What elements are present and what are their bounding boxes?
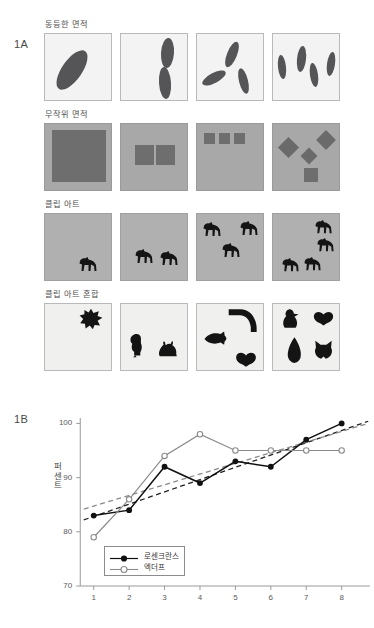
stimulus-cell[interactable] (120, 33, 188, 101)
square-shape (204, 133, 215, 144)
chart-y-tick-label: 70 (52, 581, 72, 590)
stimulus-cell[interactable] (120, 213, 188, 281)
starburst-icon (79, 308, 103, 330)
square-shape (156, 145, 175, 165)
condition-row-clip-art-mixed: 클립 아트 혼합 (44, 290, 349, 371)
ellipse-shape (296, 46, 308, 73)
chart-x-tick-label: 2 (122, 593, 136, 602)
chart-x-tick-label: 6 (264, 593, 278, 602)
chart-x-tick-label: 3 (158, 593, 172, 602)
stimulus-cell[interactable] (196, 213, 264, 281)
ellipse-shape (200, 67, 228, 88)
horse-icon (133, 248, 155, 268)
horse-icon (201, 221, 223, 241)
rabbit-icon (157, 340, 179, 358)
duck-icon (281, 308, 301, 330)
condition-title-equal-area: 동등한 면적 (45, 20, 349, 30)
diamond-shape (301, 148, 318, 165)
panel-1a-label: 1A (14, 38, 28, 50)
legend-symbol-open-circle (109, 561, 139, 572)
horse-icon (238, 220, 260, 240)
leaf-icon (286, 336, 303, 364)
line-chart (60, 410, 374, 616)
condition-row-random-area: 무작위 면적 (44, 110, 349, 191)
panel-1b-label: 1B (14, 413, 28, 425)
stimulus-cell[interactable] (272, 303, 340, 371)
horse-icon (315, 237, 336, 256)
ellipse-shape (277, 55, 287, 80)
stimulus-cell[interactable] (272, 213, 340, 281)
chart-y-tick-label: 100 (52, 418, 72, 427)
ellipse-shape (308, 63, 319, 88)
butterfly-icon (235, 352, 257, 369)
squirrel-icon (128, 332, 144, 358)
square-shape (135, 145, 154, 165)
condition-row-equal-area: 동등한 면적 (44, 20, 349, 101)
stimulus-cells-equal-area (44, 33, 349, 101)
stimulus-cell[interactable] (272, 123, 340, 191)
ellipse-shape (160, 38, 175, 69)
stimulus-cell[interactable] (44, 123, 112, 191)
stimulus-cell[interactable] (196, 33, 264, 101)
stimulus-cell[interactable] (196, 303, 264, 371)
ellipse-shape (158, 67, 172, 100)
condition-title-random-area: 무작위 면적 (45, 110, 349, 120)
horse-icon (77, 256, 99, 276)
condition-row-clip-art: 클립 아트 (44, 200, 349, 281)
legend-symbol-filled-circle (109, 550, 139, 561)
legend-label-series-2: 엑더프 (144, 561, 165, 572)
horse-icon (220, 242, 242, 262)
square-shape (52, 130, 106, 182)
stimulus-cell[interactable] (44, 33, 112, 101)
legend-label-series-1: 로센크란스 (144, 550, 179, 561)
legend-item-series-1[interactable]: 로센크란스 (109, 550, 179, 561)
stimulus-cells-clip-art-mixed (44, 303, 349, 371)
stimulus-cells-random-area (44, 123, 349, 191)
chart-x-tick-label: 7 (299, 593, 313, 602)
legend-item-series-2[interactable]: 엑더프 (109, 561, 179, 572)
stimulus-cell[interactable] (44, 303, 112, 371)
chart-y-tick-label: 80 (52, 527, 72, 536)
square-shape (304, 168, 318, 182)
chart-x-tick-label: 1 (87, 593, 101, 602)
ellipse-shape (51, 45, 94, 94)
stimulus-cell[interactable] (44, 213, 112, 281)
square-shape (219, 133, 230, 144)
chart-y-tick-label: 90 (52, 473, 72, 482)
chart-x-tick-label: 8 (335, 593, 349, 602)
stimulus-cell[interactable] (272, 33, 340, 101)
ellipse-shape (222, 40, 241, 69)
square-shape (234, 133, 245, 144)
horse-icon (302, 256, 323, 275)
banana-icon (226, 308, 260, 334)
condition-title-clip-art: 클립 아트 (45, 200, 349, 210)
chart-legend[interactable]: 로센크란스 엑더프 (104, 546, 185, 576)
stimulus-cell[interactable] (120, 123, 188, 191)
chart-x-tick-label: 4 (193, 593, 207, 602)
stimulus-cell[interactable] (120, 303, 188, 371)
ellipse-shape (325, 52, 336, 77)
horse-icon (313, 219, 334, 238)
diamond-shape (278, 137, 299, 158)
fox-head-icon (313, 339, 334, 360)
horse-icon (280, 257, 301, 276)
butterfly-icon (313, 311, 334, 328)
chart-x-tick-label: 5 (228, 593, 242, 602)
condition-title-clip-art-mixed: 클립 아트 혼합 (45, 290, 349, 300)
panel-1a: 1A 동등한 면적 (0, 14, 357, 396)
stimulus-cells-clip-art (44, 213, 349, 281)
horse-icon (158, 250, 180, 270)
diamond-shape (316, 130, 336, 150)
fish-icon (203, 331, 229, 346)
ellipse-shape (236, 67, 251, 94)
stimulus-cell[interactable] (196, 123, 264, 191)
